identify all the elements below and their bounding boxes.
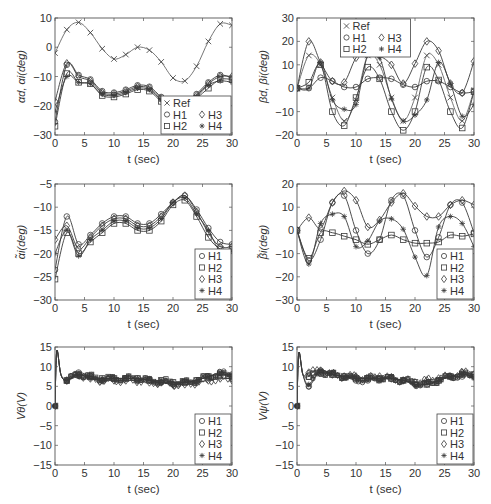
x-tick-label: 25 [438,137,450,149]
y-tick-label: −20 [33,248,52,260]
x-marker-icon [64,27,70,33]
legend: H1H2H3H4 [195,249,231,299]
y-tick-label: 10 [282,59,294,71]
svg-text:H3: H3 [208,109,222,121]
x-axis-label: t (sec) [370,483,402,495]
asterisk-marker-icon [448,214,454,220]
asterisk-marker-icon [323,372,327,376]
series-line-ref [55,22,232,81]
svg-text:H1: H1 [208,415,222,427]
svg-text:H4: H4 [208,450,222,462]
x-tick-label: 10 [108,302,120,314]
svg-text:H3: H3 [388,32,402,44]
asterisk-marker-icon [341,106,347,112]
x-tick-label: 10 [108,137,120,149]
asterisk-marker-icon [143,376,147,380]
asterisk-marker-icon [459,221,465,227]
x-axis-label: t (sec) [128,153,160,165]
asterisk-marker-icon [306,85,312,91]
asterisk-marker-icon [364,376,368,380]
asterisk-marker-icon [464,371,468,375]
asterisk-marker-icon [424,273,430,279]
y-axis-label: β̃i(deg) [257,224,269,260]
x-tick-label: 30 [226,302,238,314]
x-tick-label: 25 [196,302,208,314]
asterisk-marker-icon [217,371,221,375]
series-group [52,350,235,410]
asterisk-marker-icon [410,381,414,385]
y-tick-label: 0 [288,224,294,236]
asterisk-marker-icon [412,254,418,260]
x-tick-label: 5 [323,302,329,314]
y-tick-label: −30 [275,294,294,306]
asterisk-marker-icon [114,378,118,382]
asterisk-marker-icon [377,378,381,382]
asterisk-marker-icon [184,378,188,382]
asterisk-marker-icon [435,381,439,385]
y-tick-label: 20 [282,178,294,190]
y-axis-label: Vθ(V) [15,392,27,420]
asterisk-marker-icon [222,370,226,374]
x-marker-icon [170,75,176,81]
x-tick-label: 10 [350,302,362,314]
asterisk-marker-icon [106,374,110,378]
asterisk-marker-icon [155,382,159,386]
x-tick-label: 25 [196,467,208,479]
svg-text:H2: H2 [450,427,464,439]
y-tick-label: −10 [33,439,52,451]
x-axis-label: t (sec) [128,483,160,495]
svg-text:H1: H1 [173,109,187,121]
x-axis-label: t (sec) [128,318,160,330]
y-tick-label: −5 [39,420,52,432]
asterisk-marker-icon [199,453,204,458]
x-tick-label: 20 [167,137,179,149]
asterisk-marker-icon [441,288,446,293]
x-tick-label: 25 [438,467,450,479]
x-tick-label: 5 [81,137,87,149]
asterisk-marker-icon [111,93,117,99]
x-tick-label: 0 [294,467,300,479]
svg-text:H1: H1 [353,32,367,44]
asterisk-marker-icon [315,371,319,375]
asterisk-marker-icon [306,261,312,267]
x-marker-icon [194,63,200,69]
svg-text:Ref: Ref [173,97,191,109]
asterisk-marker-icon [360,378,364,382]
legend: H1H2H3H4 [437,249,473,299]
asterisk-marker-icon [397,380,401,384]
asterisk-marker-icon [135,225,141,231]
asterisk-marker-icon [356,378,360,382]
asterisk-marker-icon [209,376,213,380]
asterisk-marker-icon [389,96,395,102]
y-tick-label: 0 [46,400,52,412]
asterisk-marker-icon [402,378,406,382]
asterisk-marker-icon [65,379,69,383]
x-tick-label: 20 [167,467,179,479]
asterisk-marker-icon [379,46,384,51]
legend: H1H2H3H4 [195,414,231,464]
asterisk-marker-icon [353,244,359,250]
y-tick-label: 5 [46,380,52,392]
asterisk-marker-icon [443,374,447,378]
x-tick-label: 0 [52,302,58,314]
asterisk-marker-icon [439,377,443,381]
asterisk-marker-icon [319,370,323,374]
svg-text:H1: H1 [450,250,464,262]
x-tick-label: 30 [468,467,480,479]
y-tick-label: −10 [275,439,294,451]
asterisk-marker-icon [340,376,344,380]
svg-text:H1: H1 [208,250,222,262]
asterisk-marker-icon [135,85,141,91]
x-tick-label: 25 [438,302,450,314]
asterisk-marker-icon [131,376,135,380]
svg-text:H2: H2 [208,262,222,274]
asterisk-marker-icon [385,374,389,378]
svg-text:H4: H4 [388,43,402,55]
asterisk-marker-icon [193,381,197,385]
x-marker-icon [412,95,418,101]
asterisk-marker-icon [180,379,184,383]
asterisk-marker-icon [418,384,422,388]
asterisk-marker-icon [147,87,153,93]
y-tick-label: −10 [275,248,294,260]
asterisk-marker-icon [348,373,352,377]
